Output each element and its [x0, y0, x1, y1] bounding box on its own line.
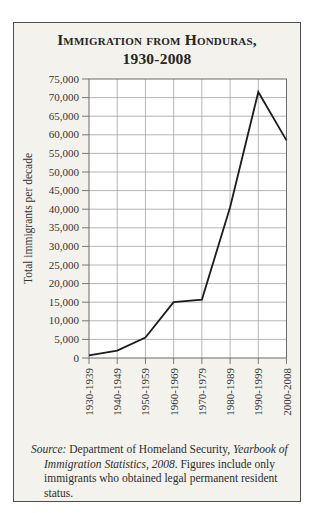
chart-title-line1: Immigration from Honduras, [14, 30, 300, 49]
source-note-segment: Source: [31, 443, 66, 455]
y-tick-label: 50,000 [49, 166, 80, 178]
x-tick-label: 1930-1939 [83, 368, 95, 416]
source-note: Source: Department of Homeland Security,… [31, 442, 300, 500]
y-tick-label: 75,000 [49, 73, 80, 85]
x-tick-label: 1980-1989 [224, 368, 236, 416]
y-tick-label: 45,000 [49, 184, 80, 196]
plot-area [89, 79, 287, 358]
x-tick-label: 2000-2008 [281, 368, 293, 416]
y-tick-label: 15,000 [49, 296, 80, 308]
y-axis-title: Total immigrants per decade [22, 153, 35, 284]
x-tick-label: 1960-1969 [168, 368, 180, 416]
y-tick-label: 65,000 [49, 110, 80, 122]
x-tick-label: 1970-1979 [196, 368, 208, 416]
y-tick-label: 25,000 [49, 259, 80, 271]
y-tick-label: 20,000 [49, 277, 80, 289]
y-tick-label: 70,000 [49, 91, 80, 103]
chart-title-line2: 1930-2008 [14, 49, 300, 68]
y-tick-label: 60,000 [49, 128, 80, 140]
y-tick-label: 5,000 [54, 333, 79, 345]
y-tick-label: 10,000 [49, 314, 80, 326]
y-tick-label: 40,000 [49, 203, 80, 215]
y-tick-label: 30,000 [49, 240, 80, 252]
x-tick-label: 1950-1959 [139, 368, 151, 416]
x-tick-label: 1940-1949 [111, 368, 123, 416]
chart-card: Immigration from Honduras, 1930-2008 05,… [13, 22, 301, 502]
source-note-segment: Department of Homeland Security, [66, 443, 233, 455]
page: Immigration from Honduras, 1930-2008 05,… [0, 0, 314, 513]
chart-title: Immigration from Honduras, 1930-2008 [14, 30, 300, 68]
line-chart: 05,00010,00015,00020,00025,00030,00035,0… [14, 67, 299, 443]
y-tick-label: 35,000 [49, 221, 80, 233]
y-tick-label: 0 [74, 352, 80, 364]
y-tick-label: 55,000 [49, 147, 80, 159]
x-tick-label: 1990-1999 [252, 368, 264, 416]
